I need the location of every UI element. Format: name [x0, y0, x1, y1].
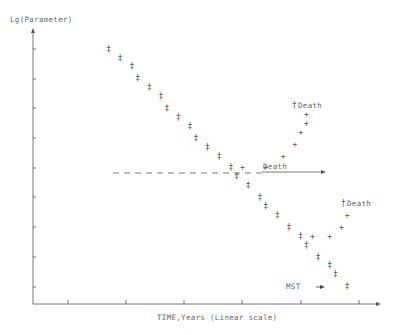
data-point: ‡	[327, 261, 332, 270]
death-label-right: † Death	[341, 199, 371, 208]
data-point: ‡	[345, 282, 350, 291]
data-point: ‡	[275, 211, 280, 220]
data-point: ‡	[194, 134, 199, 143]
data-point: ‡	[205, 143, 210, 152]
data-point: ‡	[176, 113, 181, 122]
data-point: ‡	[258, 193, 263, 202]
x-axis-label: TIME,Years (Linear scale)	[157, 313, 277, 322]
data-point: ‡	[188, 122, 193, 131]
data-point: ‡	[263, 202, 268, 211]
data-point: +	[304, 110, 309, 119]
svg-text:Death: Death	[298, 101, 322, 110]
data-point: ‡	[234, 172, 239, 181]
data-point: +	[327, 232, 332, 241]
y-axis	[31, 28, 36, 304]
chart-svg: Lg(Parameter) TIME,Years (Linear scale) …	[0, 0, 398, 335]
data-point: +	[345, 211, 350, 220]
data-point: ‡	[217, 152, 222, 161]
data-point: ‡	[159, 92, 164, 101]
x-axis	[33, 300, 381, 306]
dagger-icon: †	[292, 101, 297, 110]
data-point: ‡	[147, 83, 152, 92]
data-point: +	[263, 163, 268, 172]
arrowhead-icon	[321, 170, 326, 174]
series-untreated-decline: ‡‡‡‡‡‡‡‡‡‡‡‡‡‡‡‡‡‡‡‡‡‡‡‡‡	[106, 45, 350, 292]
data-point: +	[292, 140, 297, 149]
data-point: +	[304, 119, 309, 128]
svg-text:Death: Death	[347, 199, 371, 208]
data-point: ‡	[298, 232, 303, 241]
data-point: ‡	[135, 74, 140, 83]
data-point: +	[281, 152, 286, 161]
data-point: +	[310, 232, 315, 241]
data-point: +	[339, 223, 344, 232]
series-late-treatment: ++++	[310, 211, 350, 241]
data-point: ‡	[129, 62, 134, 71]
data-point: ‡	[287, 223, 292, 232]
dagger-icon: †	[341, 199, 346, 208]
arrowhead-icon	[320, 285, 325, 289]
data-point: ‡	[316, 253, 321, 262]
data-point: ‡	[164, 104, 169, 113]
data-point: ‡	[106, 45, 111, 54]
data-point: +	[240, 163, 245, 172]
y-axis-label: Lg(Parameter)	[10, 15, 73, 24]
data-point: ‡	[246, 181, 251, 190]
data-point: ‡	[304, 241, 309, 250]
data-point: ‡	[118, 54, 123, 63]
mst-label: MST	[286, 282, 301, 291]
data-point: ‡	[333, 270, 338, 279]
death-label-top: † Death	[292, 101, 322, 110]
data-point: ‡	[228, 163, 233, 172]
data-point: +	[298, 128, 303, 137]
